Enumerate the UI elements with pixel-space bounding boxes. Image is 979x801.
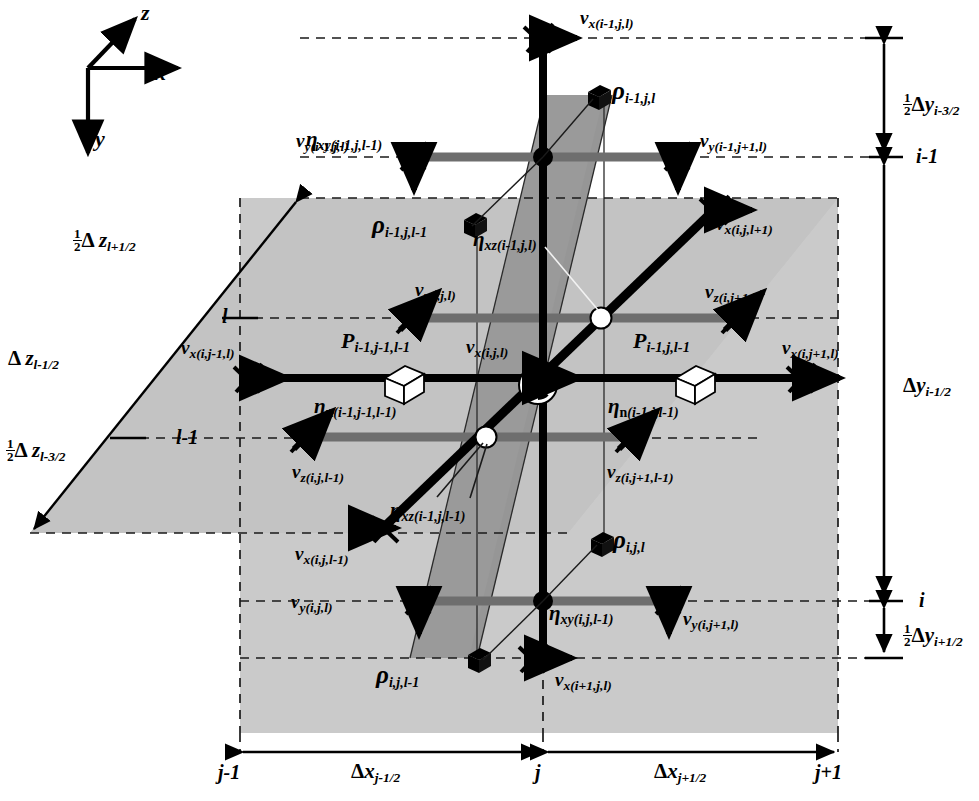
tick-im1: i-1 xyxy=(916,146,938,166)
vx-i-j-lm1: vx(i,j,l-1) xyxy=(295,544,348,566)
eta-xz-node-lower xyxy=(476,427,497,448)
half-dz-lm3h: 12Δ zl-3/2 xyxy=(6,438,66,464)
stencil-drawing xyxy=(0,0,979,801)
dx-jm1h: Δxj-1/2 xyxy=(351,761,400,784)
vy-marker xyxy=(399,143,427,190)
figure-canvas: z x y vx(i-1,j,l)vy(i-1,j,l)vy(i-1,j+1,l… xyxy=(0,0,979,801)
vz-i-jp1-lm1: vz(i,j+1,l-1) xyxy=(607,462,673,484)
vy-marker xyxy=(663,143,691,190)
dx-jp1h: Δxj+1/2 xyxy=(654,761,706,784)
vz-i-j-l: vz(i,j,l) xyxy=(415,280,456,302)
vx-ip1-j-l: vx(i+1,j,l) xyxy=(555,670,612,692)
eta-xz-im1-j-l: ηxz(i-1,j,l) xyxy=(473,229,537,253)
vz-i-j-lm1: vz(i,j,l-1) xyxy=(292,462,344,484)
tick-i: i xyxy=(919,590,925,610)
tick-jp1: j+1 xyxy=(815,762,842,782)
rho-i-j-lm1: ρi,j,l-1 xyxy=(376,662,419,690)
vx-i-jp1-l: vx(i,j+1,l) xyxy=(782,338,839,360)
vy-im1-jp1-l: vy(i-1,j+1,l) xyxy=(700,131,767,153)
vy-i-jp1-l: vy(i,j+1,l) xyxy=(683,609,739,631)
dy-im1h: Δyi-1/2 xyxy=(903,375,951,398)
rho-i-j-l: ρi,j,l xyxy=(613,527,645,555)
tick-j: j xyxy=(535,762,541,782)
tick-lm1: l-1 xyxy=(176,427,198,447)
eta-n-im1-jm1-lm1: ηn(i-1,j-1,l-1) xyxy=(314,396,396,420)
center-pie-marker xyxy=(519,366,557,404)
eta-xy-i-j-lm1: ηxy(i,j,l-1) xyxy=(549,603,613,627)
y-dimension-axis xyxy=(865,38,903,658)
vx-i-j-l: vx(i,j,l) xyxy=(466,337,508,359)
tick-l: l xyxy=(222,306,228,326)
half-dy-ip1h: 12Δyi+1/2 xyxy=(903,623,963,649)
half-dy-im3h: 12Δyi-3/2 xyxy=(903,92,960,118)
axis-label-x: x xyxy=(155,62,166,84)
axis-label-y: y xyxy=(95,128,105,150)
rho-im1-j-l: ρi-1,j,l xyxy=(612,78,655,106)
rho-im1-j-lm1: ρi-1,j,l-1 xyxy=(372,212,427,240)
vy-i-j-l: vy(i,j,l) xyxy=(291,592,332,614)
eta-n-im1-j-lm1: ηn(i-1,j,l-1) xyxy=(608,396,679,420)
eta-xz-im1-j-lm1: ηxz(i-1,j,l-1) xyxy=(390,500,465,524)
vx-im1-j-l: vx(i-1,j,l) xyxy=(580,8,633,30)
dz-lm1h: Δ zl-1/2 xyxy=(8,348,59,371)
P-im1-j-lm1: Pi-1,j,l-1 xyxy=(633,330,690,355)
eta-xz-node-upper xyxy=(591,308,612,329)
eta-xy-im1-j-lm1: ηxy(i-1,j,l-1) xyxy=(306,129,382,153)
vx-marker xyxy=(524,24,577,52)
vz-i-jp1-l: vz(i,j+1,l) xyxy=(705,282,760,304)
vx-i-jm1-l: vx(i,j-1,l) xyxy=(181,338,234,360)
P-im1-jm1-lm1: Pi-1,j-1,l-1 xyxy=(341,330,410,355)
axis-label-z: z xyxy=(141,2,150,24)
vx-i-j-lp1: vx(i,j,l+1) xyxy=(716,214,773,236)
half-dz-lp1h: 12Δ zl+1/2 xyxy=(73,228,136,254)
tick-jm1: j-1 xyxy=(218,762,240,782)
